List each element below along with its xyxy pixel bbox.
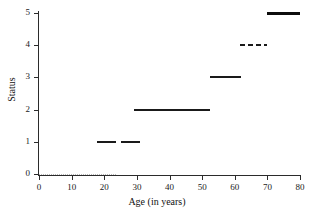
x-axis-title: Age (in years) bbox=[0, 196, 314, 207]
x-tick-70 bbox=[267, 176, 268, 180]
data-segment-status-1 bbox=[121, 141, 140, 143]
y-tick-3 bbox=[34, 77, 38, 78]
x-tick-60 bbox=[235, 176, 236, 180]
x-tick-label-80: 80 bbox=[290, 183, 310, 192]
data-segment-status-1 bbox=[97, 141, 116, 143]
data-segment-status-4 bbox=[240, 44, 268, 46]
x-tick-label-70: 70 bbox=[257, 183, 277, 192]
data-segment-status-2 bbox=[134, 109, 211, 111]
x-tick-label-30: 30 bbox=[127, 183, 147, 192]
data-segment-status-5 bbox=[267, 12, 300, 15]
y-tick-2 bbox=[34, 110, 38, 111]
y-tick-0 bbox=[34, 174, 38, 175]
data-segment-status-0 bbox=[39, 174, 117, 175]
data-segment-status-3 bbox=[210, 76, 241, 78]
y-tick-5 bbox=[34, 13, 38, 14]
y-tick-4 bbox=[34, 45, 38, 46]
x-tick-label-10: 10 bbox=[62, 183, 82, 192]
x-tick-50 bbox=[202, 176, 203, 180]
x-tick-label-40: 40 bbox=[160, 183, 180, 192]
y-tick-label-0: 0 bbox=[14, 169, 30, 178]
x-tick-10 bbox=[72, 176, 73, 180]
y-tick-1 bbox=[34, 142, 38, 143]
y-tick-label-1: 1 bbox=[14, 137, 30, 146]
plot-area bbox=[39, 13, 300, 174]
status-by-age-chart: 012345 01020304050607080 Age (in years) … bbox=[0, 0, 314, 215]
x-tick-20 bbox=[104, 176, 105, 180]
x-tick-0 bbox=[39, 176, 40, 180]
y-axis-title: Status bbox=[6, 60, 17, 120]
x-tick-40 bbox=[170, 176, 171, 180]
x-tick-30 bbox=[137, 176, 138, 180]
x-tick-label-0: 0 bbox=[29, 183, 49, 192]
x-tick-label-50: 50 bbox=[192, 183, 212, 192]
x-tick-label-20: 20 bbox=[94, 183, 114, 192]
y-tick-label-5: 5 bbox=[14, 8, 30, 17]
x-tick-label-60: 60 bbox=[225, 183, 245, 192]
x-tick-80 bbox=[300, 176, 301, 180]
y-tick-label-4: 4 bbox=[14, 40, 30, 49]
